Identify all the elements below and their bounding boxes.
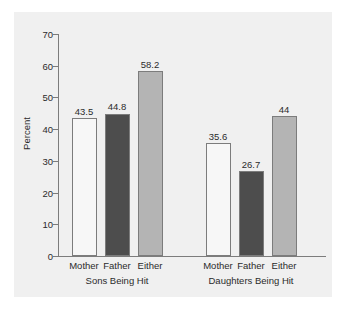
x-axis-label-either: Either [272, 261, 297, 271]
x-axis-label-either: Either [138, 261, 163, 271]
bar-value-label: 26.7 [242, 160, 261, 170]
y-axis-tick-label: 30 [13, 157, 53, 167]
x-axis-label-father: Father [103, 261, 130, 271]
y-axis-tick [53, 97, 58, 98]
bar-sons-either[interactable]: 58.2 [138, 71, 163, 256]
y-axis-tick-label: 50 [13, 93, 53, 103]
y-axis-tick [53, 129, 58, 130]
y-axis-line [58, 34, 59, 257]
x-axis-group-label: Daughters Being Hit [208, 276, 293, 286]
bar-value-label: 35.6 [209, 132, 228, 142]
bar-value-label: 58.2 [141, 60, 160, 70]
y-axis-tick [53, 66, 58, 67]
bar-daughters-either[interactable]: 44 [272, 116, 297, 256]
bar-value-label: 44 [279, 105, 290, 115]
x-axis-label-mother: Mother [69, 261, 99, 271]
bar-value-label: 43.5 [75, 107, 94, 117]
x-axis-label-mother: Mother [203, 261, 233, 271]
plot-area: Percent 010203040506070 43.544.858.235.6… [0, 0, 347, 311]
y-axis-tick-label: 20 [13, 189, 53, 199]
y-axis-tick-label: 40 [13, 125, 53, 135]
y-axis-tick-label: 70 [13, 30, 53, 40]
x-axis-label-father: Father [237, 261, 264, 271]
y-axis-tick-label: 60 [13, 62, 53, 72]
bar-sons-father[interactable]: 44.8 [105, 114, 130, 256]
bar-daughters-father[interactable]: 26.7 [239, 171, 264, 256]
y-axis-tick [53, 161, 58, 162]
y-axis-tick [53, 34, 58, 35]
y-axis-tick [53, 256, 58, 257]
y-axis-tick-label: 10 [13, 220, 53, 230]
x-axis-line [58, 256, 326, 257]
y-axis-tick [53, 193, 58, 194]
bar-value-label: 44.8 [108, 102, 127, 112]
y-axis-tick-label: 0 [13, 252, 53, 262]
x-axis-group-label: Sons Being Hit [86, 276, 149, 286]
bar-sons-mother[interactable]: 43.5 [72, 118, 97, 256]
y-axis-tick [53, 224, 58, 225]
bar-daughters-mother[interactable]: 35.6 [206, 143, 231, 256]
bar-chart-figure: Percent 010203040506070 43.544.858.235.6… [0, 0, 347, 311]
